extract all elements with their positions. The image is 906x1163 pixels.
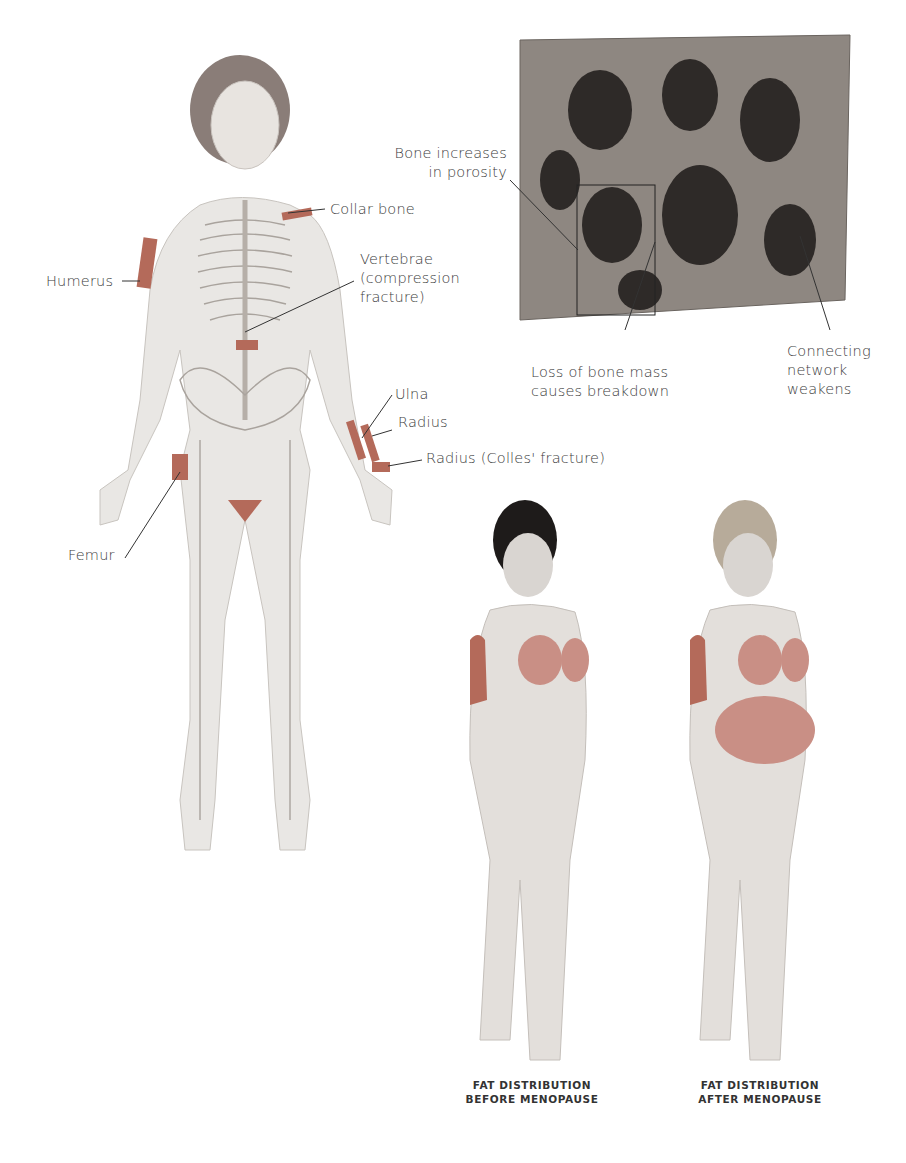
- label-ulna: Ulna: [395, 385, 429, 404]
- label-vertebrae-line3: fracture): [360, 288, 460, 307]
- label-radius: Radius: [398, 413, 448, 432]
- label-network-line3: weakens: [787, 380, 871, 399]
- label-bone-loss-line2: causes breakdown: [531, 382, 669, 401]
- label-bone-loss-line1: Loss of bone mass: [531, 363, 669, 382]
- label-vertebrae-line2: (compression: [360, 269, 460, 288]
- caption-after-line1: FAT DISTRIBUTION: [690, 1078, 830, 1092]
- label-network-line2: network: [787, 361, 871, 380]
- caption-before-line1: FAT DISTRIBUTION: [462, 1078, 602, 1092]
- caption-before-line2: BEFORE MENOPAUSE: [462, 1092, 602, 1106]
- label-network-line1: Connecting: [787, 342, 871, 361]
- caption-after-line2: AFTER MENOPAUSE: [690, 1092, 830, 1106]
- figure-after-menopause: [690, 500, 815, 1060]
- label-vertebrae: Vertebrae (compression fracture): [360, 250, 460, 307]
- label-vertebrae-line1: Vertebrae: [360, 250, 460, 269]
- label-radius-colles: Radius (Colles' fracture): [426, 449, 605, 468]
- caption-before-menopause: FAT DISTRIBUTION BEFORE MENOPAUSE: [462, 1078, 602, 1106]
- label-porosity: Bone increases in porosity: [360, 144, 507, 182]
- bone-cross-section: [520, 35, 850, 320]
- label-network: Connecting network weakens: [787, 342, 871, 399]
- label-collar-bone: Collar bone: [330, 200, 415, 219]
- figure-before-menopause: [470, 500, 589, 1060]
- skeleton-figure: [100, 55, 392, 850]
- caption-after-menopause: FAT DISTRIBUTION AFTER MENOPAUSE: [690, 1078, 830, 1106]
- label-porosity-line2: in porosity: [360, 163, 507, 182]
- label-humerus: Humerus: [46, 272, 113, 291]
- label-femur: Femur: [68, 546, 115, 565]
- label-porosity-line1: Bone increases: [360, 144, 507, 163]
- label-bone-loss: Loss of bone mass causes breakdown: [531, 363, 669, 401]
